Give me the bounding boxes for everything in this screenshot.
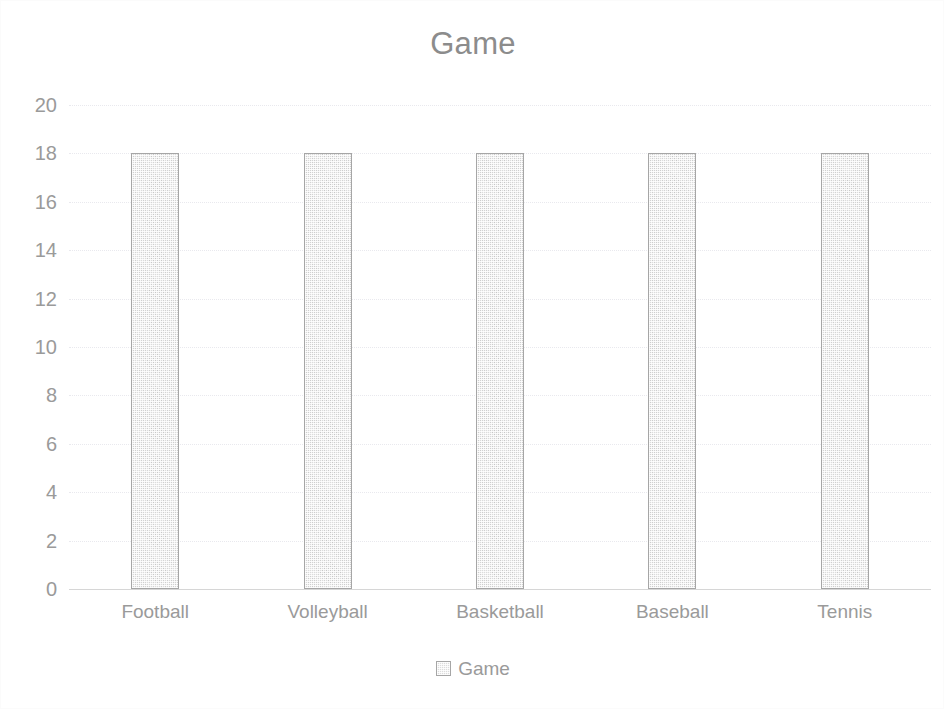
bar (821, 153, 869, 589)
chart-legend: Game (1, 659, 944, 678)
axis-baseline (69, 589, 931, 591)
y-axis-tick-label: 2 (1, 531, 57, 551)
bar-chart: Game 20181614121086420 FootballVolleybal… (0, 0, 944, 709)
chart-title: Game (1, 27, 944, 61)
y-axis-tick-label: 16 (1, 192, 57, 212)
bar (648, 153, 696, 589)
y-axis-tick-label: 4 (1, 482, 57, 502)
x-axis-tick-label: Football (121, 601, 189, 624)
x-axis-tick-label: Baseball (636, 601, 709, 624)
y-axis-tick-label: 8 (1, 385, 57, 405)
bar (476, 153, 524, 589)
y-axis-tick-label: 0 (1, 579, 57, 599)
bar (131, 153, 179, 589)
x-axis: FootballVolleyballBasketballBaseballTenn… (69, 601, 931, 635)
y-axis-tick-label: 6 (1, 434, 57, 454)
x-axis-tick-label: Basketball (456, 601, 544, 624)
legend-swatch-icon (436, 661, 451, 676)
y-axis-tick-label: 10 (1, 337, 57, 357)
x-axis-tick-label: Tennis (817, 601, 872, 624)
y-axis-tick-label: 12 (1, 289, 57, 309)
x-axis-tick-label: Volleyball (287, 601, 367, 624)
bars-layer (69, 105, 931, 589)
legend-item-label: Game (458, 659, 510, 678)
bar (304, 153, 352, 589)
y-axis-tick-label: 14 (1, 240, 57, 260)
y-axis: 20181614121086420 (1, 105, 57, 589)
y-axis-tick-label: 20 (1, 95, 57, 115)
y-axis-tick-label: 18 (1, 143, 57, 163)
